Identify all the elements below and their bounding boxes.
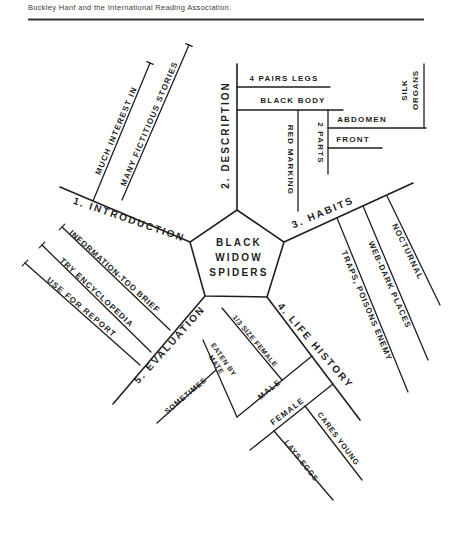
item-black-body: BLACK BODY	[260, 97, 325, 105]
item-silk-organs: SILK ORGANS	[399, 70, 421, 110]
scanned-semantic-map-page: Buckley Hanf and the International Readi…	[0, 0, 452, 534]
item-abdomen: ABDOMEN	[337, 116, 387, 124]
branch-label-description: 2. DESCRIPTION	[221, 81, 232, 188]
item-red-marking: RED MARKING	[286, 125, 294, 196]
center-title-line3: SPIDERS	[209, 265, 268, 280]
item-silk-organs-line2: ORGANS	[410, 70, 421, 110]
item-two-parts: 2 PARTS	[316, 122, 324, 164]
item-silk-organs-line1: SILK	[399, 70, 410, 110]
center-title-line2: WIDOW	[209, 250, 268, 265]
item-front: FRONT	[336, 136, 370, 144]
item-pairs-legs: 4 PAIRS LEGS	[250, 75, 319, 83]
center-title-line1: BLACK	[209, 235, 268, 250]
center-title: BLACK WIDOW SPIDERS	[209, 235, 268, 280]
